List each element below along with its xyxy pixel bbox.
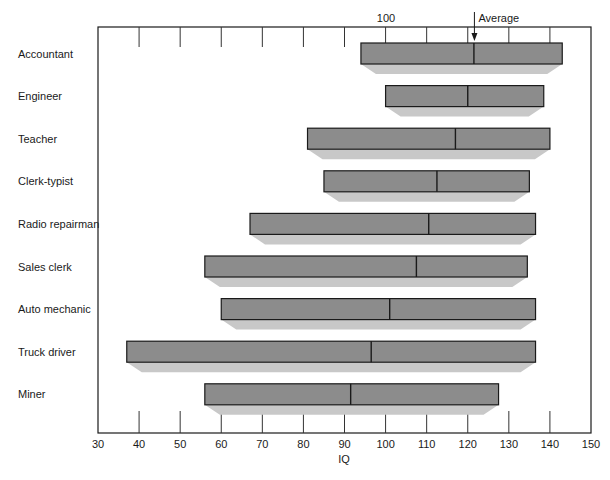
bar-shadow [127,362,536,372]
range-bar-body [250,213,536,234]
bar-shadow [221,320,535,330]
range-bar [205,256,528,287]
category-label: Miner [18,388,46,400]
range-bar [127,341,536,372]
category-label: Accountant [18,48,73,60]
x-tick-labels: 30405060708090100110120130140150 [92,438,600,450]
iq-occupation-chart: AccountantEngineerTeacherClerk-typistRad… [0,0,610,480]
category-label: Auto mechanic [18,303,91,315]
range-bar-body [308,128,550,149]
category-label: Clerk-typist [18,175,73,187]
x-tick-label: 110 [418,438,436,450]
bar-shadow [324,192,529,202]
x-axis-label: IQ [338,453,350,465]
range-bar [324,171,529,202]
average-label: Average [478,12,519,24]
category-label: Sales clerk [18,261,72,273]
x-tick-label: 70 [256,438,268,450]
range-bar-body [127,341,536,362]
x-tick-label: 150 [582,438,600,450]
x-tick-label: 120 [459,438,477,450]
category-label: Teacher [18,133,57,145]
x-tick-label: 60 [215,438,227,450]
x-tick-label: 80 [297,438,309,450]
range-bar [205,384,499,415]
bar-shadow [205,405,499,415]
bar-shadow [205,277,528,287]
range-bar-body [324,171,529,192]
range-bar [221,299,535,330]
range-bar-body [386,86,544,107]
range-bar-body [221,299,535,320]
category-labels: AccountantEngineerTeacherClerk-typistRad… [18,48,99,401]
x-tick-label: 130 [500,438,518,450]
bar-shadow [308,149,550,159]
range-bar [250,213,536,244]
bar-shadow [250,234,536,244]
range-bar [308,128,550,159]
category-label: Truck driver [18,346,76,358]
x-tick-label: 140 [541,438,559,450]
bar-shadow [361,64,562,74]
category-label: Engineer [18,90,62,102]
arrow-head-icon [471,33,477,41]
range-bar [361,43,562,74]
x-tick-label: 40 [133,438,145,450]
x-tick-label: 100 [376,438,394,450]
x-tick-label: 90 [338,438,350,450]
range-bar-body [205,384,499,405]
category-label: Radio repairman [18,218,99,230]
range-bars [127,43,562,415]
range-bar-body [205,256,528,277]
range-bar-body [361,43,562,64]
x-tick-label: 30 [92,438,104,450]
bar-shadow [386,107,544,117]
x-tick-label: 50 [174,438,186,450]
range-bar [386,86,544,117]
top-tick-label-100: 100 [377,12,395,24]
